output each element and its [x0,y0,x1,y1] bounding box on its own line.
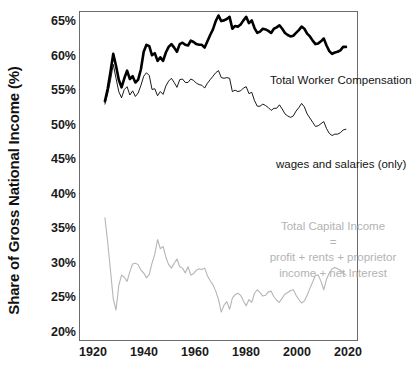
x-tick-1940: 1940 [116,345,172,359]
y-tick-65: 65% [32,15,76,28]
annotation-capital-line-4: income + net Interest [248,266,416,282]
y-tick-40: 40% [32,188,76,201]
y-tick-60: 60% [32,50,76,63]
x-tick-2020: 2020 [320,345,376,359]
y-axis-title: Share of Gross National Income (%) [0,0,26,381]
chart-series-layer [80,12,357,340]
annotation-capital-line-1: Total Capital Income [248,219,416,235]
x-tick-1960: 1960 [167,345,223,359]
plot-area: Total Worker Compensation wages and sala… [79,11,358,341]
y-tick-25: 25% [32,291,76,304]
y-axis-tick-labels: 20% 25% 30% 35% 40% 45% 50% 55% 60% 65% [28,0,76,381]
y-tick-45: 45% [32,153,76,166]
y-tick-35: 35% [32,222,76,235]
annotation-capital-line-3: profit + rents + proprietor [248,250,416,266]
annotation-total-capital-income: Total Capital Income = profit + rents + … [248,219,416,281]
y-tick-50: 50% [32,119,76,132]
annotation-total-worker-compensation: Total Worker Compensation [270,74,412,86]
y-tick-30: 30% [32,257,76,270]
x-tick-2000: 2000 [269,345,325,359]
y-tick-20: 20% [32,326,76,339]
y-tick-55: 55% [32,84,76,97]
annotation-capital-line-2: = [248,235,416,251]
x-tick-1980: 1980 [218,345,274,359]
x-tick-1920: 1920 [65,345,121,359]
series-line-total-worker-compensation [105,15,346,101]
annotation-wages-and-salaries: wages and salaries (only) [276,158,406,170]
